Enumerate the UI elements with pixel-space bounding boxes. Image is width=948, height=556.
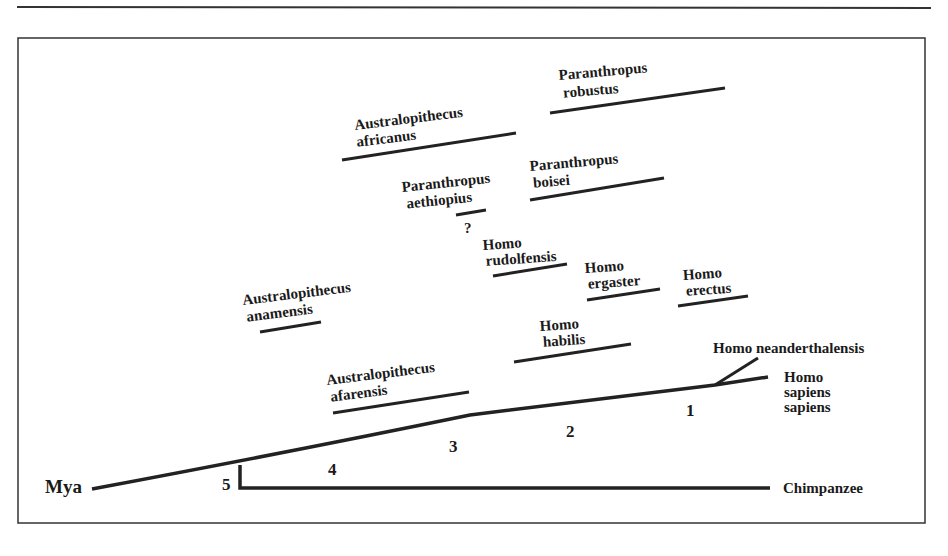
hominin-phylogeny-figure: Mya 5 4 3 2 1 Paranthropus robustus Aust…	[0, 0, 948, 556]
time-mark-4: 4	[328, 460, 337, 479]
time-mark-5: 5	[222, 475, 231, 494]
svg-text:Paranthropus: Paranthropus	[529, 150, 619, 174]
svg-text:robustus: robustus	[562, 80, 619, 101]
time-mark-2: 2	[566, 422, 575, 441]
range-bar-a-anamensis	[260, 322, 321, 332]
label-homo-neanderthalensis: Homo neanderthalensis	[713, 340, 864, 356]
label-homo-sapiens-line1: Homo	[784, 369, 823, 385]
label-homo-sapiens-line3: sapiens	[784, 399, 831, 415]
species-homo-ergaster: Homo ergaster	[584, 256, 641, 292]
species-homo-erectus: Homo erectus	[682, 264, 732, 299]
time-mark-1: 1	[686, 401, 695, 420]
top-rule	[17, 7, 931, 8]
svg-text:habilis: habilis	[542, 331, 586, 350]
label-homo-sapiens-line2: sapiens	[784, 384, 831, 400]
range-bar-p-aethiopius	[456, 210, 486, 215]
species-paranthropus-robustus: Paranthropus robustus	[558, 59, 650, 101]
species-homo-habilis: Homo habilis	[539, 315, 586, 350]
species-paranthropus-boisei: Paranthropus boisei	[529, 150, 621, 191]
axis-label-mya: Mya	[45, 476, 82, 497]
chimpanzee-branch	[240, 465, 770, 488]
svg-text:erectus: erectus	[685, 280, 732, 299]
svg-text:boisei: boisei	[532, 172, 570, 191]
main-lineage-line	[92, 377, 768, 489]
species-homo-rudolfensis: Homo rudolfensis	[482, 232, 557, 269]
figure-frame	[18, 38, 925, 523]
svg-text:ergaster: ergaster	[587, 272, 641, 292]
label-chimpanzee: Chimpanzee	[783, 480, 863, 496]
uncertain-ancestry-marker: ?	[464, 220, 472, 236]
svg-text:Paranthropus: Paranthropus	[558, 59, 648, 83]
time-mark-3: 3	[449, 437, 458, 456]
species-paranthropus-aethiopius: Paranthropus aethiopius	[401, 170, 493, 212]
species-australopithecus-anamensis: Australopithecus anamensis	[241, 279, 354, 325]
